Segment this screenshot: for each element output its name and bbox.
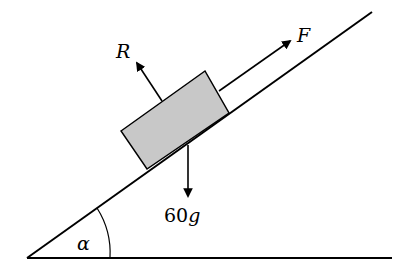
label-weight-number: 60 [164,204,188,226]
label-weight: 60g [164,204,200,226]
label-alpha: α [77,232,90,254]
block [121,71,229,169]
label-weight-symbol: g [188,204,200,226]
normal-reaction-arrow [137,63,162,101]
label-F: F [296,24,311,46]
label-R: R [115,40,130,62]
angle-arc [97,208,110,258]
inclined-plane-diagram: R F 60g α [0,0,404,278]
applied-force-arrow [219,41,290,91]
